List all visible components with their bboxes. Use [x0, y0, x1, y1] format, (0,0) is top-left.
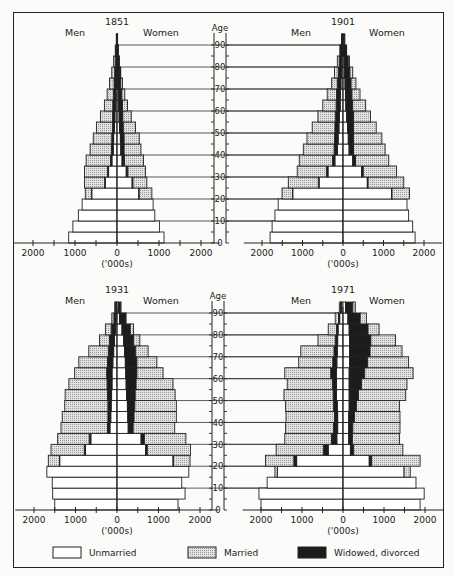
- men-married-bar: [112, 67, 115, 78]
- women-unmarried-bar: [117, 368, 126, 379]
- women-unmarried-bar: [117, 477, 182, 488]
- women-married-bar: [359, 390, 406, 401]
- married-legend-label: Married: [224, 548, 258, 558]
- women-widowed-bar: [121, 144, 124, 155]
- men-widowed-bar: [334, 133, 338, 144]
- units-label: ('000s): [327, 259, 358, 269]
- x-tick-label: 2000: [22, 248, 45, 258]
- men-unmarried-bar: [92, 188, 117, 199]
- women-widowed-bar: [347, 111, 354, 122]
- women-married-bar: [125, 155, 144, 166]
- women-married-bar: [137, 368, 163, 379]
- women-unmarried-bar: [117, 335, 124, 346]
- age-tick-label: 0: [215, 505, 220, 515]
- women-married-bar: [123, 111, 131, 122]
- women-unmarried-bar: [343, 177, 367, 188]
- women-unmarried-bar: [117, 166, 126, 177]
- women-married-bar: [124, 144, 141, 155]
- men-unmarried-bar: [52, 477, 117, 488]
- women-unmarried-bar: [117, 232, 164, 243]
- men-unmarried-bar: [340, 313, 343, 324]
- men-married-bar: [89, 346, 109, 357]
- women-unmarried-bar: [117, 144, 121, 155]
- men-widowed-bar: [107, 368, 112, 379]
- men-married-bar: [284, 390, 333, 401]
- women-unmarried-bar: [343, 433, 349, 444]
- men-married-bar: [299, 357, 333, 368]
- men-married-bar: [299, 155, 332, 166]
- women-married-bar: [353, 302, 355, 313]
- women-married-bar: [137, 357, 157, 368]
- units-label: ('000s): [101, 526, 132, 536]
- men-unmarried-bar: [111, 412, 117, 423]
- women-married-bar: [368, 177, 404, 188]
- men-married-bar: [96, 122, 112, 133]
- men-married-bar: [114, 56, 116, 67]
- men-widowed-bar: [336, 100, 340, 111]
- men-unmarried-bar: [82, 199, 117, 210]
- men-widowed-bar: [108, 401, 111, 412]
- women-unmarried-bar: [343, 210, 409, 221]
- men-unmarried-bar: [278, 199, 343, 210]
- women-unmarried-bar: [117, 188, 139, 199]
- women-widowed-bar: [349, 422, 353, 433]
- men-unmarried-bar: [114, 133, 117, 144]
- women-married-bar: [121, 78, 123, 89]
- women-married-bar: [352, 433, 399, 444]
- women-unmarried-bar: [343, 335, 350, 346]
- men-married-bar: [84, 177, 104, 188]
- women-married-bar: [354, 412, 400, 423]
- men-unmarried-bar: [336, 390, 343, 401]
- men-married-bar: [335, 313, 338, 324]
- men-unmarried-bar: [338, 324, 343, 335]
- women-widowed-bar: [349, 324, 368, 335]
- women-unmarried-bar: [343, 232, 415, 243]
- unmarried-legend-label: Unmarried: [89, 548, 137, 558]
- women-married-bar: [122, 89, 125, 100]
- men-unmarried-bar: [267, 477, 343, 488]
- men-unmarried-bar: [111, 401, 117, 412]
- women-unmarried-bar: [343, 401, 349, 412]
- men-married-bar: [85, 188, 91, 199]
- x-tick-label: 2000: [250, 515, 273, 525]
- panel-year-title: 1971: [331, 284, 355, 295]
- women-unmarried-bar: [117, 177, 132, 188]
- men-married-bar: [282, 188, 293, 199]
- women-widowed-bar: [348, 313, 360, 324]
- women-widowed-bar: [127, 390, 136, 401]
- men-married-bar: [286, 412, 334, 423]
- men-married-bar: [318, 335, 335, 346]
- women-unmarried-bar: [117, 210, 155, 221]
- men-unmarried-bar: [47, 466, 117, 477]
- men-unmarried-bar: [73, 221, 117, 232]
- men-married-bar: [100, 335, 110, 346]
- men-widowed-bar: [110, 335, 115, 346]
- men-unmarried-bar: [319, 177, 343, 188]
- women-unmarried-bar: [117, 444, 146, 455]
- men-married-bar: [115, 45, 116, 56]
- women-unmarried-bar: [343, 368, 349, 379]
- men-married-bar: [286, 401, 334, 412]
- x-tick-label: 1000: [291, 248, 314, 258]
- women-unmarried-bar: [117, 488, 185, 499]
- men-married-bar: [100, 111, 112, 122]
- men-married-bar: [93, 133, 111, 144]
- men-unmarried-bar: [105, 177, 117, 188]
- women-widowed-bar: [349, 379, 361, 390]
- men-married-bar: [79, 357, 108, 368]
- men-unmarried-bar: [53, 488, 117, 499]
- women-married-bar: [353, 422, 400, 433]
- men-married-bar: [109, 78, 114, 89]
- men-married-bar: [332, 78, 338, 89]
- women-widowed-bar: [345, 78, 351, 89]
- women-widowed-bar: [350, 357, 368, 368]
- women-widowed-bar: [345, 302, 352, 313]
- men-unmarried-bar: [275, 210, 343, 221]
- women-unmarried-bar: [117, 390, 127, 401]
- x-tick-label: 2000: [190, 248, 213, 258]
- women-widowed-bar: [349, 412, 355, 423]
- women-widowed-bar: [349, 144, 353, 155]
- men-unmarried-bar: [337, 433, 343, 444]
- men-married-bar: [90, 144, 111, 155]
- women-unmarried-bar: [343, 188, 392, 199]
